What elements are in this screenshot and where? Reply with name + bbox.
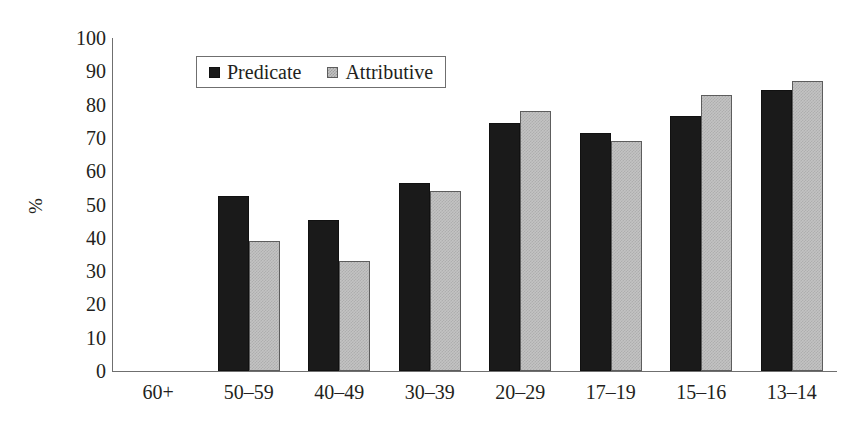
bar-attributive-30–39 bbox=[430, 191, 461, 371]
square-gray-icon bbox=[327, 67, 338, 78]
y-axis-tick-70: 70 bbox=[48, 128, 106, 148]
bar-group bbox=[127, 38, 189, 371]
legend-item-attributive: Attributive bbox=[327, 62, 433, 82]
bar-predicate-17–19 bbox=[580, 133, 611, 371]
y-axis-tick-0: 0 bbox=[48, 361, 106, 381]
y-axis-tick-80: 80 bbox=[48, 95, 106, 115]
y-axis-tick-20: 20 bbox=[48, 294, 106, 314]
y-axis-tick-50: 50 bbox=[48, 195, 106, 215]
legend-label-predicate: Predicate bbox=[227, 62, 301, 82]
bar-attributive-15–16 bbox=[701, 95, 732, 371]
y-axis-tick-100: 100 bbox=[48, 28, 106, 48]
x-axis-tick-label: 17–19 bbox=[566, 381, 657, 403]
y-axis-tick-30: 30 bbox=[48, 261, 106, 281]
legend-item-predicate: Predicate bbox=[209, 62, 301, 82]
bar-predicate-13–14 bbox=[761, 90, 792, 371]
x-axis-tick-label: 30–39 bbox=[385, 381, 476, 403]
square-black-icon bbox=[209, 67, 220, 78]
x-axis-tick-label: 13–14 bbox=[747, 381, 838, 403]
x-axis-tick-label: 40–49 bbox=[294, 381, 385, 403]
bar-predicate-40–49 bbox=[308, 220, 339, 372]
x-axis-tick-label: 60+ bbox=[113, 381, 204, 403]
y-axis-tick-40: 40 bbox=[48, 228, 106, 248]
bar-predicate-15–16 bbox=[670, 116, 701, 371]
y-axis-tick-90: 90 bbox=[48, 61, 106, 81]
bar-attributive-13–14 bbox=[792, 81, 823, 371]
bar-attributive-17–19 bbox=[611, 141, 642, 371]
bar-attributive-50–59 bbox=[249, 241, 280, 371]
chart-legend: Predicate Attributive bbox=[196, 56, 446, 88]
x-axis-tick-label: 15–16 bbox=[656, 381, 747, 403]
bar-predicate-20–29 bbox=[489, 123, 520, 371]
x-axis-tick-label: 20–29 bbox=[475, 381, 566, 403]
x-axis-line bbox=[112, 371, 837, 372]
y-axis-tick-10: 10 bbox=[48, 328, 106, 348]
x-axis-tick-label: 50–59 bbox=[204, 381, 295, 403]
bar-attributive-40–49 bbox=[339, 261, 370, 371]
bar-predicate-50–59 bbox=[218, 196, 249, 371]
bar-group bbox=[580, 38, 642, 371]
bar-group bbox=[761, 38, 823, 371]
y-axis-tick-labels: 1009080706050403020100 bbox=[48, 38, 106, 371]
x-axis-tick-labels: 60+50–5940–4930–3920–2917–1915–1613–14 bbox=[113, 381, 837, 415]
bar-group bbox=[670, 38, 732, 371]
bar-attributive-20–29 bbox=[520, 111, 551, 371]
y-axis-tick-60: 60 bbox=[48, 161, 106, 181]
bar-chart: % 1009080706050403020100 60+50–5940–4930… bbox=[0, 0, 854, 429]
legend-label-attributive: Attributive bbox=[345, 62, 433, 82]
bar-group bbox=[489, 38, 551, 371]
bar-predicate-30–39 bbox=[399, 183, 430, 371]
